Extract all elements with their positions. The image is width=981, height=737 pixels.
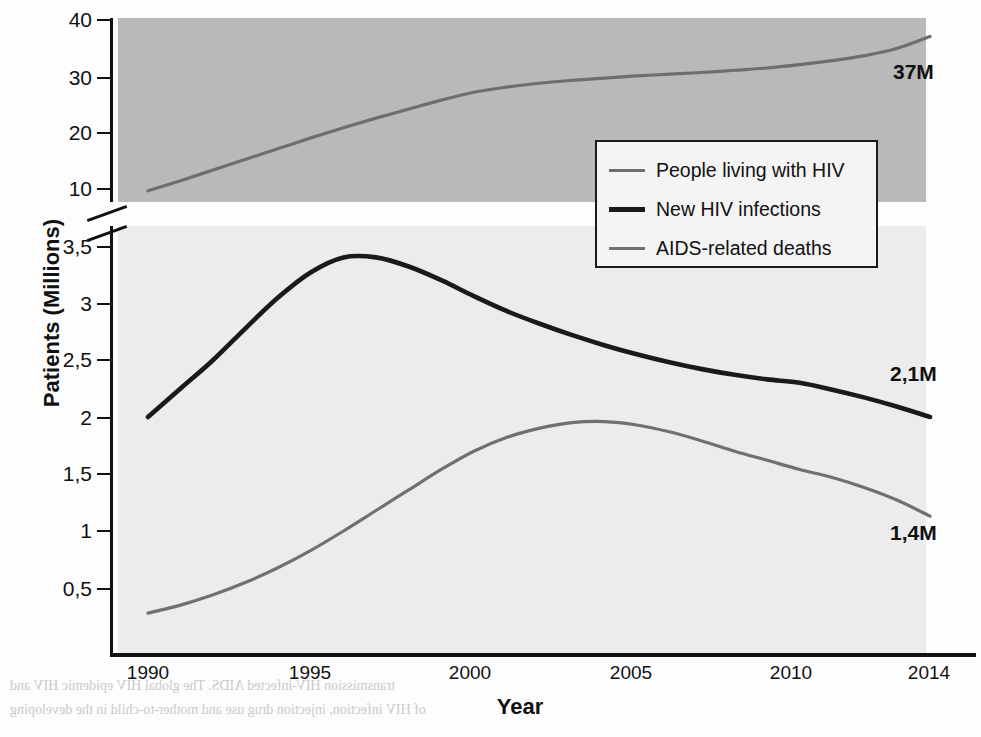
end-label-people-living-with-hiv: 37M [893, 60, 934, 84]
legend-item-people-living-with-hiv: People living with HIV [609, 151, 876, 190]
end-label-new-hiv-infections: 2,1M [890, 362, 937, 386]
legend-label-new-hiv-infections: New HIV infections [656, 198, 821, 221]
legend-label-people-living-with-hiv: People living with HIV [656, 159, 845, 182]
series-line-new-hiv-infections [148, 256, 930, 417]
legend-label-aids-related-deaths: AIDS-related deaths [656, 237, 832, 260]
series-curves [0, 0, 981, 737]
legend-swatch-icon-aids-related-deaths [609, 247, 645, 250]
series-line-aids-related-deaths [148, 421, 930, 613]
legend-swatch-icon-new-hiv-infections [609, 207, 645, 212]
legend-swatch-icon-people-living-with-hiv [609, 169, 645, 172]
end-label-aids-related-deaths: 1,4M [890, 521, 937, 545]
legend-item-aids-related-deaths: AIDS-related deaths [609, 229, 876, 268]
chart-legend: People living with HIV New HIV infection… [595, 140, 878, 268]
chart-figure: Weeks Year transmission HIV-infected AID… [0, 0, 981, 737]
legend-item-new-hiv-infections: New HIV infections [609, 190, 876, 229]
